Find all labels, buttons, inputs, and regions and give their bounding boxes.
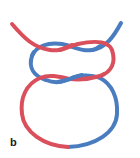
panel-label: b xyxy=(10,136,17,148)
blue-strand-bottom xyxy=(68,75,117,147)
red-strand-top xyxy=(12,24,114,79)
blue-over-crossing-2 xyxy=(32,52,34,56)
red-strand-bottom xyxy=(22,76,70,147)
red-over-crossing-2 xyxy=(100,74,104,76)
knot-diagram-figure: b xyxy=(0,0,140,158)
knot-diagram xyxy=(0,0,140,158)
